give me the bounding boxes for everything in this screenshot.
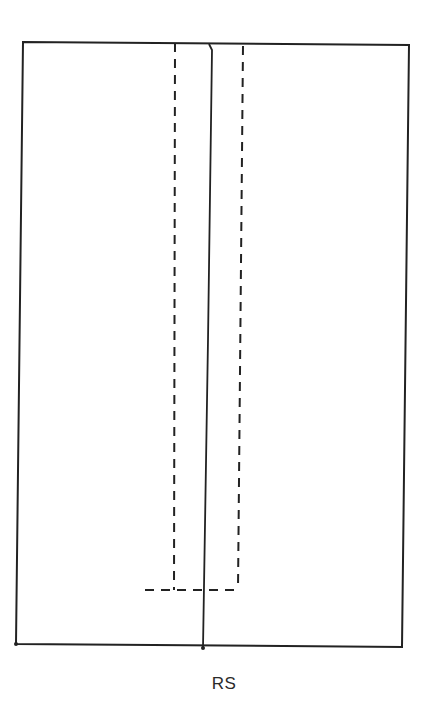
pattern-diagram <box>0 0 438 723</box>
slit-left-dashed-line <box>174 43 175 590</box>
center-line-end-dot <box>201 646 205 650</box>
background <box>0 0 438 723</box>
bottom-left-corner-dot <box>14 642 18 646</box>
right-side-label: RS <box>0 674 438 694</box>
